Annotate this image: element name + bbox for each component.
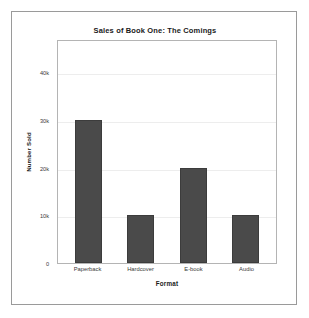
x-axis-title: Format xyxy=(57,280,277,287)
x-axis-tick-label: Paperback xyxy=(61,266,114,272)
bar-slot xyxy=(220,41,273,263)
x-axis-tick-labels: PaperbackHardcoverE-bookAudio xyxy=(57,266,277,272)
bar-slot xyxy=(62,41,115,263)
bar-slot xyxy=(115,41,168,263)
bar-series xyxy=(58,41,276,263)
y-axis-tick-label: 40k xyxy=(40,70,49,76)
chart-title: Sales of Book One: The Comings xyxy=(12,26,298,35)
y-axis-tick-label: 20k xyxy=(40,166,49,172)
bar-e-book xyxy=(180,168,207,263)
bar-slot xyxy=(167,41,220,263)
bar-audio xyxy=(232,215,259,263)
x-axis-tick-label: Audio xyxy=(220,266,273,272)
y-axis-tick-label: 0 xyxy=(46,261,49,267)
x-axis-tick-label: Hardcover xyxy=(114,266,167,272)
bar-hardcover xyxy=(127,215,154,263)
x-axis-tick-label: E-book xyxy=(167,266,220,272)
y-axis-tick-labels: 010k20k30k40k xyxy=(12,40,53,264)
chart-page-frame: Sales of Book One: The Comings Number So… xyxy=(11,11,297,305)
y-axis-tick-label: 30k xyxy=(40,118,49,124)
bar-paperback xyxy=(75,120,102,263)
y-axis-tick-label: 10k xyxy=(40,213,49,219)
plot-area xyxy=(57,40,277,264)
